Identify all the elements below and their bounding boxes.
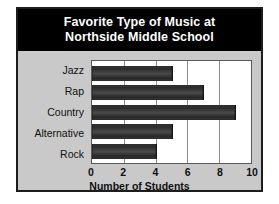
bar-row: [92, 85, 251, 100]
x-tick-label-4: 4: [152, 166, 158, 178]
bar-jazz: [92, 66, 173, 81]
chart-title-banner: Favorite Type of Music at Northside Midd…: [18, 9, 261, 51]
bar-row: [92, 124, 251, 139]
plot-area: [91, 60, 252, 164]
bar-row: [92, 144, 251, 159]
x-axis-tick-labels: 0246810: [91, 166, 252, 179]
bar-country: [92, 105, 236, 120]
x-tick-label-10: 10: [246, 166, 258, 178]
bar-row: [92, 66, 251, 81]
category-label-rock: Rock: [18, 143, 89, 164]
x-axis-title: Number of Students: [18, 180, 261, 192]
category-label-rap: Rap: [18, 81, 89, 102]
x-tick-label-6: 6: [185, 166, 191, 178]
bar-alternative: [92, 124, 173, 139]
category-label-alternative: Alternative: [18, 122, 89, 143]
x-tick-label-0: 0: [88, 166, 94, 178]
x-tick-label-8: 8: [217, 166, 223, 178]
music-preference-bar-chart: Favorite Type of Music at Northside Midd…: [16, 7, 263, 192]
bar-rap: [92, 85, 204, 100]
bar-series: [92, 61, 251, 163]
page-subtitle: Northside Middle School: [65, 30, 214, 45]
page-title: Favorite Type of Music at: [64, 15, 216, 30]
x-tick-label-2: 2: [120, 166, 126, 178]
bar-rock: [92, 144, 157, 159]
category-label-country: Country: [18, 102, 89, 123]
bar-row: [92, 105, 251, 120]
category-axis-labels: Jazz Rap Country Alternative Rock: [18, 60, 89, 164]
category-label-jazz: Jazz: [18, 60, 89, 81]
plot-region: Jazz Rap Country Alternative Rock 024681…: [18, 51, 261, 190]
